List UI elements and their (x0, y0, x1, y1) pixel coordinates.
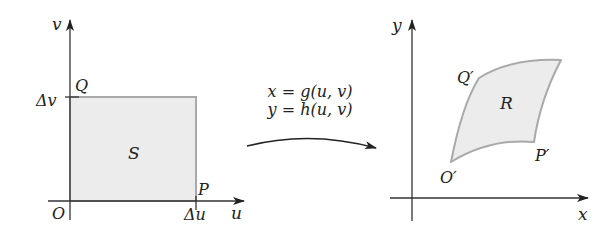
transformation: x = g(u, v) y = h(u, v) (247, 82, 376, 148)
point-p-label: P (197, 180, 209, 199)
xy-plane: y x Q′ P′ O′ R (390, 15, 588, 224)
origin-prime-label: O′ (440, 168, 457, 187)
du-tick-label: Δu (183, 205, 206, 224)
v-axis-label: v (52, 14, 62, 34)
point-q-label: Q (75, 76, 88, 95)
point-q-prime-label: Q′ (457, 68, 474, 87)
mapping-arrow (247, 138, 376, 148)
region-s-label: S (128, 143, 140, 163)
equation-y: y = h(u, v) (267, 100, 353, 119)
point-p-prime-label: P′ (534, 146, 550, 165)
y-axis-label: y (391, 15, 402, 35)
dv-tick-label: Δv (35, 91, 57, 110)
u-axis-label: u (231, 203, 242, 223)
x-axis-label: x (578, 204, 588, 224)
change-of-variables-diagram: v u Q P O Δv Δu S x = g(u, v) y = h(u, v… (0, 0, 612, 236)
region-r-label: R (499, 93, 513, 113)
origin-label: O (52, 204, 65, 223)
uv-plane: v u Q P O Δv Δu S (35, 14, 244, 224)
equation-x: x = g(u, v) (268, 82, 353, 101)
